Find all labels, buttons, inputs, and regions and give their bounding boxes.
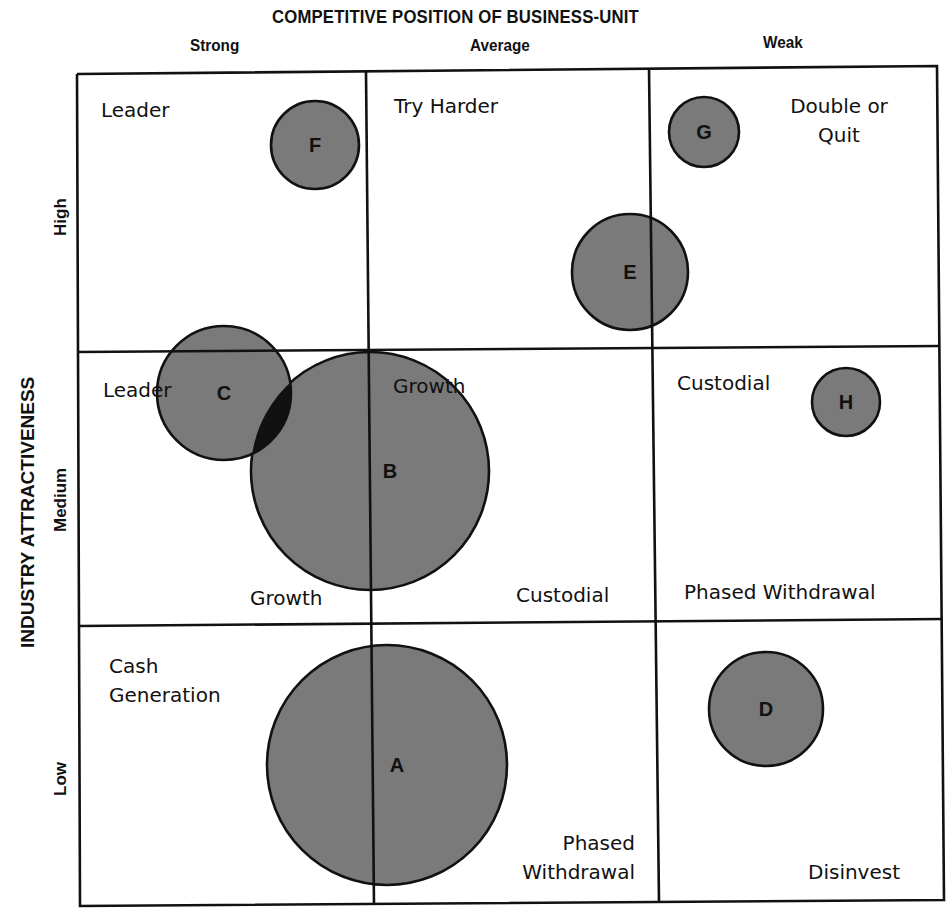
label-medium-weak-custodial: Custodial bbox=[677, 369, 770, 398]
matrix-border bbox=[77, 66, 944, 906]
label-cash: Cash bbox=[109, 652, 221, 681]
label-high-strong-leader: Leader bbox=[101, 96, 170, 125]
label-medium-weak-phased-withdrawal: Phased Withdrawal bbox=[684, 578, 876, 607]
bubble-label-e: E bbox=[623, 261, 636, 283]
label-double-or: Double or bbox=[784, 92, 894, 121]
bubble-label-h: H bbox=[839, 391, 853, 413]
label-medium-average-growth: Growth bbox=[393, 372, 465, 401]
grid-line-vertical-2 bbox=[649, 68, 659, 902]
label-medium-strong-leader: Leader bbox=[103, 376, 172, 405]
label-quit: Quit bbox=[784, 121, 894, 150]
label-high-weak-double-or-quit: Double or Quit bbox=[784, 92, 894, 150]
bubble-label-c: C bbox=[217, 382, 231, 404]
label-phased: Phased bbox=[480, 829, 635, 858]
bubble-label-a: A bbox=[390, 754, 404, 776]
grid-lines bbox=[77, 66, 944, 906]
bubble-label-f: F bbox=[309, 134, 321, 156]
bubble-label-b: B bbox=[383, 460, 397, 482]
label-withdrawal: Withdrawal bbox=[480, 858, 635, 887]
directional-policy-matrix: COMPETITIVE POSITION OF BUSINESS-UNIT St… bbox=[0, 0, 952, 917]
label-generation: Generation bbox=[109, 681, 221, 710]
label-medium-strong-growth: Growth bbox=[250, 584, 322, 613]
label-low-weak-disinvest: Disinvest bbox=[808, 858, 900, 887]
label-high-average-try-harder: Try Harder bbox=[394, 92, 498, 121]
bubble-a bbox=[267, 645, 507, 885]
label-low-strong-cash-generation: Cash Generation bbox=[109, 652, 221, 710]
bubble-label-g: G bbox=[696, 121, 712, 143]
bubble-label-d: D bbox=[759, 698, 773, 720]
label-medium-average-custodial: Custodial bbox=[516, 581, 609, 610]
grid-line-horizontal-2 bbox=[79, 619, 943, 626]
label-low-average-phased-withdrawal: Phased Withdrawal bbox=[480, 829, 635, 887]
